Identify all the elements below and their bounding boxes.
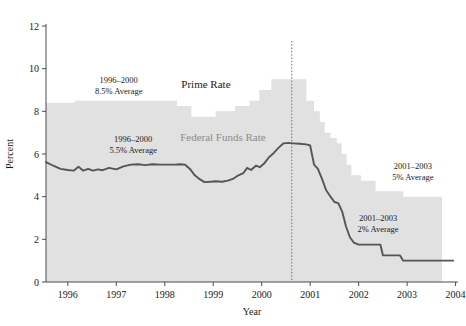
y-axis-tick-label: 8 [34, 106, 39, 117]
y-axis-tick-label: 10 [29, 63, 39, 74]
annotation-period: 2001–2003 [394, 161, 432, 171]
y-axis-title: Percent [4, 139, 15, 169]
y-axis-tick-label: 2 [34, 234, 39, 245]
annotation-value: 2% Average [357, 224, 398, 234]
federal-funds-rate-label: Federal Funds Rate [180, 131, 266, 143]
federal-funds-vs-prime-rate-chart: 0246810121996199719981999200020012002200… [0, 0, 466, 326]
annotation-ff-avg-early: 1996–20005.5% Average [109, 134, 157, 155]
x-axis-tick-label: 1999 [203, 289, 223, 300]
annotation-period: 1996–2000 [100, 75, 138, 85]
prime-rate-label: Prime Rate [181, 78, 230, 90]
annotation-value: 5% Average [392, 172, 433, 182]
y-axis-tick-label: 0 [34, 277, 39, 288]
y-axis-tick-label: 12 [29, 21, 39, 32]
x-axis-title: Year [243, 306, 262, 317]
annotation-ff-avg-late: 2001–20032% Average [357, 213, 398, 234]
chart-container: 0246810121996199719981999200020012002200… [0, 0, 466, 326]
x-axis-tick-label: 1997 [106, 289, 126, 300]
x-axis-tick-label: 2000 [252, 289, 272, 300]
annotation-value: 5.5% Average [109, 145, 157, 155]
y-axis-tick-label: 4 [34, 191, 39, 202]
annotation-prime-avg-early: 1996–20008.5% Average [95, 75, 143, 96]
annotation-prime-avg-late: 2001–20035% Average [392, 161, 433, 182]
annotation-period: 1996–2000 [114, 134, 152, 144]
annotation-period: 2001–2003 [359, 213, 397, 223]
x-axis-tick-label: 2004 [446, 289, 466, 300]
x-axis-tick-label: 1998 [155, 289, 175, 300]
annotation-value: 8.5% Average [95, 86, 143, 96]
y-axis-tick-label: 6 [34, 149, 39, 160]
x-axis-tick-label: 2001 [300, 289, 320, 300]
x-axis-tick-label: 2003 [397, 289, 417, 300]
x-axis-tick-label: 1996 [58, 289, 78, 300]
x-axis-tick-label: 2002 [349, 289, 369, 300]
